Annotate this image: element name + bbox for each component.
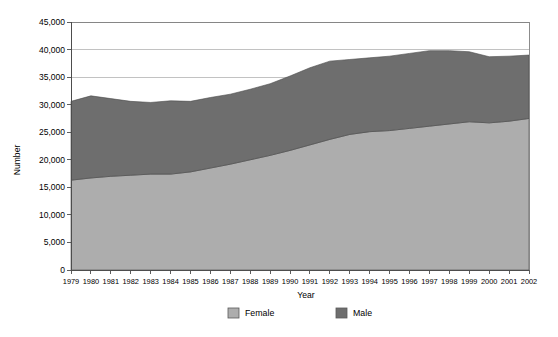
legend-swatch-female [228,308,239,318]
x-tick-label: 2000 [481,277,497,286]
x-tick-label: 1993 [342,277,358,286]
x-tick-label: 1990 [282,277,298,286]
chart-legend: FemaleMale [228,308,372,318]
y-axis-title: Number [12,145,22,176]
x-tick-label: 1982 [123,277,139,286]
x-tick-label: 1989 [262,277,278,286]
legend-label-female: Female [245,308,274,318]
x-tick-label: 1992 [322,277,338,286]
y-axis-tick-labels: 05,00010,00015,00020,00025,00030,00035,0… [39,17,71,275]
x-tick-label: 1985 [182,277,198,286]
x-axis-title: Year [297,290,315,300]
x-tick-label: 1986 [202,277,218,286]
y-tick-label: 30,000 [39,100,65,110]
y-tick-label: 40,000 [39,45,65,55]
x-tick-label: 1998 [441,277,457,286]
x-tick-label: 1984 [162,277,178,286]
y-tick-label: 35,000 [39,72,65,82]
x-tick-label: 1979 [63,277,79,286]
y-tick-label: 15,000 [39,182,65,192]
chart-container: 05,00010,00015,00020,00025,00030,00035,0… [0,0,558,337]
x-tick-label: 1995 [381,277,397,286]
y-tick-label: 45,000 [39,17,65,27]
x-tick-label: 1997 [421,277,437,286]
legend-swatch-male [336,308,347,318]
x-tick-label: 1988 [242,277,258,286]
x-tick-label: 1994 [361,277,377,286]
y-tick-label: 5,000 [44,237,66,247]
stacked-area-chart: 05,00010,00015,00020,00025,00030,00035,0… [0,0,558,337]
x-tick-label: 1999 [461,277,477,286]
x-axis-tick-labels: 1979198019811982198319841985198619871988… [63,270,537,286]
y-tick-label: 10,000 [39,210,65,220]
x-tick-label: 1980 [83,277,99,286]
x-tick-label: 1987 [222,277,238,286]
x-tick-label: 1983 [142,277,158,286]
x-tick-label: 2002 [521,277,537,286]
x-tick-label: 1981 [103,277,119,286]
x-tick-label: 1991 [302,277,318,286]
legend-label-male: Male [353,308,372,318]
y-tick-label: 25,000 [39,127,65,137]
y-tick-label: 20,000 [39,155,65,165]
x-tick-label: 1996 [401,277,417,286]
y-tick-label: 0 [60,265,65,275]
x-tick-label: 2001 [501,277,517,286]
